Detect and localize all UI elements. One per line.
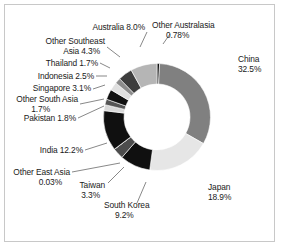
leader-australia bbox=[140, 32, 147, 47]
label-other-east-asia-value: 0.03% bbox=[39, 177, 63, 187]
label-singapore: Singapore 3.1% bbox=[33, 83, 92, 93]
leader-taiwan bbox=[108, 167, 124, 183]
label-south-korea-value: 9.2% bbox=[115, 210, 134, 220]
label-japan-value: 18.9% bbox=[208, 192, 232, 202]
label-india: India 12.2% bbox=[40, 145, 84, 155]
donut-slices bbox=[104, 64, 211, 171]
label-japan-name: Japan bbox=[208, 182, 231, 192]
leader-other-southeast-asia bbox=[107, 47, 120, 57]
donut-slice-china[interactable] bbox=[159, 64, 211, 144]
label-other-southeast-asia-line2: Asia 4.3% bbox=[63, 46, 100, 56]
label-china-name: China bbox=[238, 54, 260, 64]
label-other-east-asia-name: Other East Asia bbox=[13, 167, 70, 177]
donut-slice-japan[interactable] bbox=[150, 133, 204, 170]
label-other-southeast-asia-line1: Other Southeast bbox=[46, 36, 106, 46]
label-other-south-asia-value: 1.7% bbox=[31, 104, 50, 114]
label-other-australasia-value: 0.78% bbox=[166, 30, 190, 40]
label-other-south-asia-name: Other South Asia bbox=[16, 94, 78, 104]
label-china-value: 32.5% bbox=[238, 64, 262, 74]
slice-labels: Other Australasia 0.78% China 32.5% Japa… bbox=[13, 20, 262, 220]
chart-figure: Other Australasia 0.78% China 32.5% Japa… bbox=[0, 0, 281, 248]
label-south-korea-name: South Korea bbox=[104, 200, 150, 210]
label-thailand: Thailand 1.7% bbox=[46, 58, 99, 68]
leader-pakistan bbox=[78, 106, 104, 118]
leader-singapore bbox=[93, 85, 105, 89]
leader-thailand bbox=[100, 63, 110, 68]
label-pakistan: Pakistan 1.8% bbox=[24, 113, 77, 123]
label-australia: Australia 8.0% bbox=[92, 22, 145, 32]
donut-chart: Other Australasia 0.78% China 32.5% Japa… bbox=[0, 0, 281, 248]
label-taiwan-value: 3.3% bbox=[81, 190, 100, 200]
leader-other-east-asia bbox=[72, 163, 120, 172]
label-taiwan-name: Taiwan bbox=[80, 180, 106, 190]
label-indonesia: Indonesia 2.5% bbox=[38, 71, 95, 81]
leader-india bbox=[85, 143, 107, 150]
label-other-australasia-name: Other Australasia bbox=[152, 20, 215, 30]
leader-other-south-asia bbox=[80, 99, 104, 104]
